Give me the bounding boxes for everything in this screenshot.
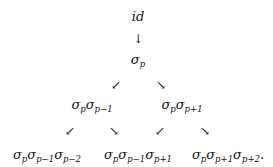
sigma-symbol: σ — [13, 147, 22, 162]
subscript: p+1 — [185, 104, 203, 114]
sigma-symbol: σ — [118, 147, 127, 162]
sigma-symbol: σ — [192, 147, 201, 162]
node-id: id — [132, 10, 144, 23]
node-sigma-p-sigma-p-minus-1: σpσp−1 — [71, 98, 112, 114]
arrow-down-icon: ↓ — [133, 33, 143, 45]
arrow-down-left-icon: ↙ — [65, 125, 75, 137]
subscript: p−1 — [127, 154, 145, 164]
suffix: . — [260, 147, 264, 162]
subscript: p+2 — [242, 154, 260, 164]
subscript: p−1 — [36, 154, 54, 164]
sigma-symbol: σ — [145, 147, 154, 162]
node-sigma-p-p-minus-1-p-plus-1: σpσp−1σp+1 — [104, 148, 172, 164]
arrow-down-right-icon: ↘ — [200, 125, 210, 137]
node-sigma-p-p-plus-1-p-plus-2: σpσp+1σp+2. — [192, 148, 264, 164]
node-sigma-p-sigma-p-plus-1: σpσp+1 — [161, 98, 202, 114]
sigma-symbol: σ — [176, 97, 185, 112]
node-id-label: id — [132, 9, 144, 24]
arrow-down-left-icon: ↙ — [111, 79, 121, 91]
subscript: p+1 — [154, 154, 172, 164]
sigma-symbol: σ — [71, 97, 80, 112]
sigma-symbol: σ — [233, 147, 242, 162]
subscript: p−1 — [95, 104, 113, 114]
arrow-down-right-icon: ↘ — [109, 125, 119, 137]
sigma-symbol: σ — [86, 97, 95, 112]
sigma-symbol: σ — [131, 52, 140, 67]
sigma-symbol: σ — [27, 147, 36, 162]
sigma-symbol: σ — [161, 97, 170, 112]
sigma-symbol: σ — [206, 147, 215, 162]
subscript: p — [140, 59, 145, 69]
subscript: p+1 — [215, 154, 233, 164]
arrow-down-right-icon: ↘ — [156, 79, 166, 91]
subscript: p−2 — [63, 154, 81, 164]
arrow-down-left-icon: ↙ — [155, 125, 165, 137]
node-sigma-p-p-minus-1-p-minus-2: σpσp−1σp−2 — [13, 148, 81, 164]
sigma-symbol: σ — [104, 147, 113, 162]
node-sigma-p: σp — [131, 53, 145, 69]
sigma-symbol: σ — [54, 147, 63, 162]
